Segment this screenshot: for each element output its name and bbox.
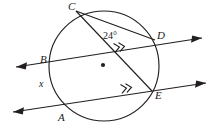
geometry-figure: C D B E A 24° x bbox=[0, 0, 220, 132]
secant-line-ae-arrowhead-right bbox=[195, 80, 206, 87]
angle-measure-label: 24° bbox=[103, 31, 117, 41]
chord-ce bbox=[76, 11, 152, 91]
point-label-e: E bbox=[155, 90, 162, 101]
geometry-canvas bbox=[0, 0, 220, 132]
secant-line-bd-arrowhead-left bbox=[16, 62, 27, 69]
circle-center-dot bbox=[101, 63, 105, 67]
secant-line-bd-arrowhead-right bbox=[191, 35, 202, 42]
secant-line-ae-arrowhead-left bbox=[13, 107, 24, 114]
point-label-a: A bbox=[58, 112, 65, 123]
unknown-arc-label: x bbox=[39, 79, 43, 89]
point-label-b: B bbox=[40, 54, 47, 65]
point-label-d: D bbox=[157, 30, 165, 41]
point-label-c: C bbox=[68, 1, 75, 12]
parallel-tick-ae bbox=[121, 83, 132, 93]
